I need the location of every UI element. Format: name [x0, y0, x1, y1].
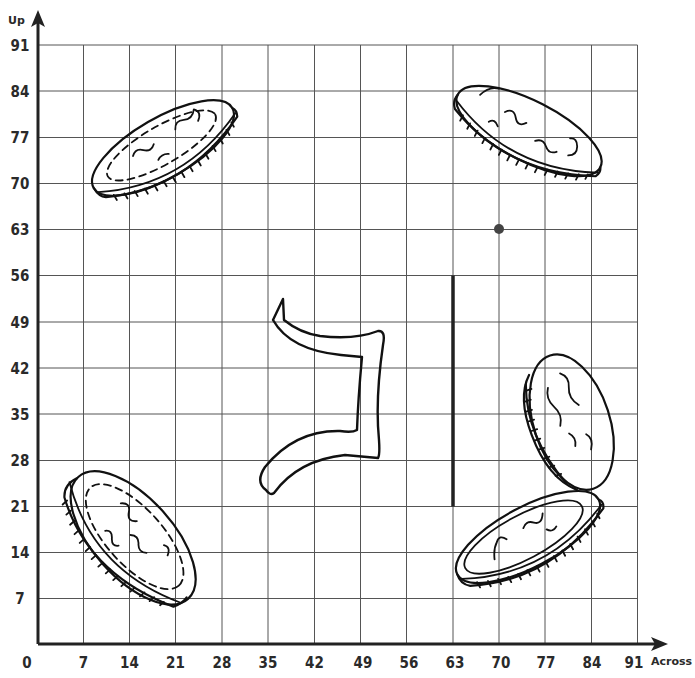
y-tick: 21 — [11, 498, 30, 516]
coin-icon-top-right — [441, 68, 615, 200]
x-tick: 77 — [537, 654, 556, 672]
axes — [31, 10, 668, 651]
y-tick: 84 — [11, 83, 30, 101]
x-tick: 28 — [213, 654, 232, 672]
y-tick: 63 — [11, 221, 30, 239]
x-tick: 35 — [259, 654, 278, 672]
y-tick: 28 — [11, 452, 30, 470]
y-axis-title: Up — [8, 14, 25, 27]
coordinate-grid-worksheet: Up Across 0 7 14 21 28 35 42 49 56 63 70… — [0, 0, 695, 678]
x-tick: 21 — [166, 654, 185, 672]
x-tick: 42 — [305, 654, 324, 672]
coin-icon-bottom-left — [43, 449, 217, 629]
x-axis-title: Across — [651, 655, 693, 668]
x-tick: 14 — [120, 654, 139, 672]
y-tick: 7 — [15, 590, 24, 608]
plotted-point — [494, 224, 504, 234]
y-tick-labels: 91 84 77 70 63 56 49 42 35 28 21 14 7 — [11, 37, 30, 608]
x-tick: 91 — [625, 654, 644, 672]
x-tick-labels: 0 7 14 21 28 35 42 49 56 63 70 77 84 91 — [22, 654, 643, 672]
x-tick: 49 — [354, 654, 373, 672]
x-tick: 63 — [446, 654, 465, 672]
x-tick: 70 — [492, 654, 511, 672]
x-tick: 0 — [22, 654, 31, 672]
x-tick: 56 — [400, 654, 419, 672]
y-tick: 42 — [11, 360, 30, 378]
z-shape — [260, 299, 384, 494]
y-tick: 49 — [11, 314, 30, 332]
y-tick: 14 — [11, 544, 30, 562]
y-tick: 56 — [11, 267, 30, 285]
y-tick: 77 — [11, 129, 30, 147]
y-tick: 70 — [11, 175, 30, 193]
x-tick: 7 — [79, 654, 88, 672]
coin-icon-top-left — [79, 81, 252, 219]
y-tick: 91 — [11, 37, 30, 55]
x-tick: 84 — [583, 654, 602, 672]
y-tick: 35 — [11, 406, 30, 424]
